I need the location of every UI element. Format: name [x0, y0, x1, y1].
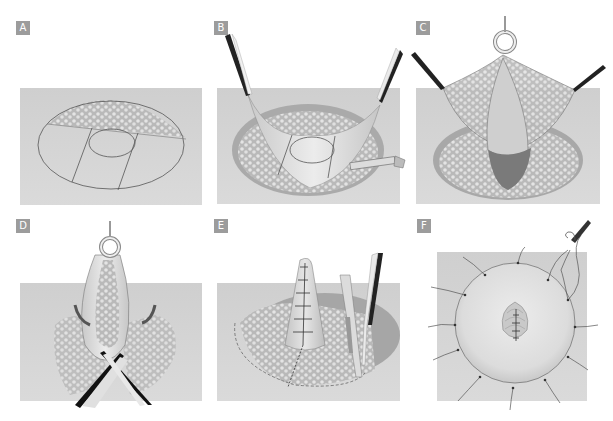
panel-b: B [200, 0, 410, 210]
panel-f: F [403, 205, 613, 421]
panel-f-illustration [403, 205, 613, 421]
panel-a-illustration [0, 0, 205, 210]
panel-b-illustration [200, 0, 410, 210]
panel-a: A [0, 0, 205, 210]
panel-e-illustration [200, 205, 410, 421]
panel-c: C [403, 0, 613, 210]
panel-d: D [0, 205, 205, 421]
panel-c-illustration [403, 0, 613, 210]
panel-e: E [200, 205, 410, 421]
panel-d-illustration [0, 205, 205, 421]
